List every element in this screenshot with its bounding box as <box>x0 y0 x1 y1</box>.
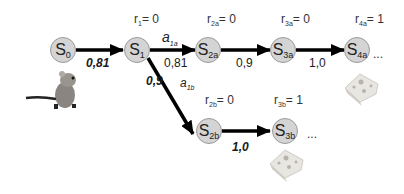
node-s4a-label: S4a <box>340 42 374 60</box>
node-s2a-label: S2a <box>191 42 225 60</box>
edge-value-s1-s2a: 0,81 <box>164 56 187 70</box>
reward-s3b: r3b= 1 <box>274 93 303 108</box>
node-s0-label: S0 <box>46 42 80 60</box>
cheese-icon-3b <box>270 150 303 182</box>
action-a1b: a1b <box>180 76 194 91</box>
ellipsis-4a: ... <box>373 47 383 61</box>
edge-value-s0-s1: 0,81 <box>86 56 109 70</box>
reward-s4a: r4a= 1 <box>355 12 384 27</box>
edge-value-s2b-s3b: 1,0 <box>232 140 249 154</box>
edge-value-s1-s2b: 0,9 <box>146 74 163 88</box>
mouse-image <box>26 71 76 109</box>
action-a1a: a1a <box>162 29 178 47</box>
reward-s2b: r2b= 0 <box>205 93 234 108</box>
node-s1-label: S1 <box>120 42 154 60</box>
reward-s2a: r2a= 0 <box>207 12 236 27</box>
edge-value-s3a-s4a: 1,0 <box>309 56 326 70</box>
node-s3a-label: S3a <box>266 42 300 60</box>
edge-value-s2a-s3a: 0,9 <box>236 56 253 70</box>
diagram-canvas <box>0 0 404 194</box>
reward-s3a: r3a= 0 <box>281 12 310 27</box>
cheese-icon-4a <box>345 74 378 106</box>
node-s3b-label: S3b <box>268 123 302 141</box>
reward-s1: r1= 0 <box>134 12 159 27</box>
node-s2b-label: S2b <box>192 123 226 141</box>
ellipsis-3b: ... <box>307 127 317 141</box>
